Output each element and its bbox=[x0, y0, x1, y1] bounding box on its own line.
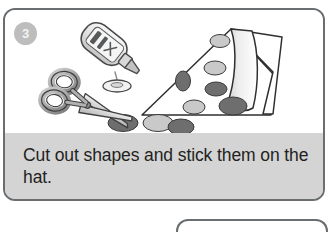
glue-drop bbox=[103, 72, 131, 92]
scissors bbox=[36, 62, 141, 133]
step-number-badge: 3 bbox=[14, 22, 37, 45]
next-step-card bbox=[176, 219, 328, 232]
craft-materials-illustration bbox=[5, 10, 323, 133]
illustration-area: 3 bbox=[5, 10, 323, 133]
screenshot-stage: 3 Cut out shapes and stick them on the h… bbox=[0, 0, 332, 232]
instruction-card: 3 Cut out shapes and stick them on the h… bbox=[3, 8, 325, 201]
glue-bottle bbox=[76, 17, 148, 83]
caption-band: Cut out shapes and stick them on the hat… bbox=[5, 133, 323, 201]
instruction-caption: Cut out shapes and stick them on the hat… bbox=[23, 144, 309, 188]
